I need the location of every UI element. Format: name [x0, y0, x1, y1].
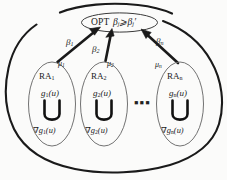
- outer-boundary-left-arc: [6, 21, 222, 172]
- arrow-beta-2: [106, 29, 115, 62]
- ra-2-title: RA2: [91, 72, 107, 81]
- ra-n-g-label: gn(u): [169, 89, 187, 98]
- opt-formula-beta-j-prime: βj′: [127, 17, 136, 27]
- mu-1-label: μ1: [58, 60, 65, 69]
- ra-1-g-label: g1(u): [41, 89, 59, 98]
- beta-2-label: β2: [92, 45, 99, 54]
- ra-n-title: RAn: [167, 72, 183, 81]
- ra-2-grad-label: ∇g2(u): [85, 127, 108, 136]
- ellipsis-label: ▪▪▪: [134, 96, 151, 109]
- mu-2-label: μ2: [107, 60, 114, 69]
- mu-n-label: μn: [155, 61, 162, 70]
- outer-boundary-top-arc: [60, 4, 172, 14]
- ra-1-grad-label: ∇g1(u): [33, 127, 56, 136]
- ra-2-u-shape: [97, 101, 112, 120]
- beta-n-label: βn: [156, 37, 163, 46]
- opt-formula: βj⩾βj′: [113, 18, 136, 28]
- beta-1-label: β1: [66, 38, 73, 47]
- opt-label: OPT: [91, 18, 110, 28]
- ra-n-u-shape: [173, 101, 188, 120]
- ra-1-title: RA1: [39, 72, 55, 81]
- ra-1-u-shape: [45, 101, 60, 120]
- ra-n-grad-label: ∇gn(u): [161, 127, 184, 136]
- diagram-canvas: OPT βj⩾βj′ β1 β2 βn μ1 μ2 μn RA1 g1(u) ∇…: [0, 0, 227, 180]
- ra-2-g-label: g2(u): [93, 89, 111, 98]
